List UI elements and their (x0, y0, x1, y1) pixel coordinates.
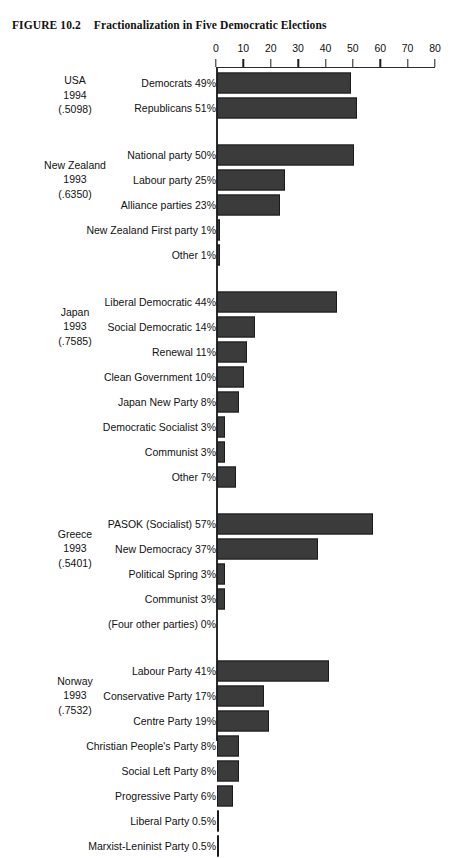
x-axis-tick-mark (297, 59, 298, 67)
party-label: Alliance parties 23% (121, 199, 216, 211)
party-label: New Democracy 37% (115, 543, 216, 555)
bar-row: Conservative Party 17% (0, 683, 450, 708)
bar (217, 416, 225, 437)
party-label: Conservative Party 17% (103, 690, 216, 702)
bar (217, 835, 219, 856)
bar (217, 810, 219, 831)
bar-row: Communist 3% (0, 586, 450, 611)
party-label: Renewal 11% (152, 346, 216, 358)
bar (217, 97, 357, 118)
party-label: Social Democratic 14% (107, 321, 216, 333)
bar-row: Labour party 25% (0, 167, 450, 192)
country-group: New Zealand1993(.6350)National party 50%… (0, 142, 450, 267)
party-label: Communist 3% (145, 593, 216, 605)
bar-row: Centre Party 19% (0, 708, 450, 733)
bar-row: Alliance parties 23% (0, 192, 450, 217)
party-label: Democrats 49% (141, 77, 216, 89)
bar (217, 316, 255, 337)
axis-rule (216, 67, 435, 68)
bar (217, 563, 225, 584)
bar (217, 685, 264, 706)
bar (217, 785, 233, 806)
x-axis-tick-mark (270, 59, 271, 67)
bar-row: Other 1% (0, 242, 450, 267)
x-axis-tick-label: 60 (374, 42, 386, 54)
bar (217, 735, 239, 756)
bar-row: Political Spring 3% (0, 561, 450, 586)
bar-row: Labour Party 41% (0, 658, 450, 683)
country-group: USA1994(.5098)Democrats 49%Republicans 5… (0, 70, 450, 120)
bar-row: Social Democratic 14% (0, 314, 450, 339)
party-label: Clean Government 10% (104, 371, 216, 383)
bar-row: New Zealand First party 1% (0, 217, 450, 242)
bar (217, 710, 269, 731)
bar-row: Other 7% (0, 464, 450, 489)
bar (217, 144, 354, 165)
bar (217, 244, 220, 265)
bar (217, 391, 239, 412)
x-axis-tick-label: 50 (347, 42, 359, 54)
bar (217, 466, 236, 487)
bar (217, 588, 225, 609)
x-axis-tick-mark (325, 59, 326, 67)
bar-row: Liberal Democratic 44% (0, 289, 450, 314)
party-label: Christian People's Party 8% (86, 740, 216, 752)
country-group: Japan1993(.7585)Liberal Democratic 44%So… (0, 289, 450, 489)
bar-row: Progressive Party 6% (0, 783, 450, 808)
bar-row: Liberal Party 0.5% (0, 808, 450, 833)
x-axis: 01020304050607080 (216, 44, 435, 60)
bar-row: PASOK (Socialist) 57% (0, 511, 450, 536)
bar-row: Renewal 11% (0, 339, 450, 364)
bar (217, 366, 244, 387)
bar-row: Republicans 51% (0, 95, 450, 120)
x-axis-tick-mark (407, 59, 408, 67)
country-group: Greece1993(.5401)PASOK (Socialist) 57%Ne… (0, 511, 450, 636)
party-label: Marxist-Leninist Party 0.5% (88, 840, 216, 852)
x-axis-tick-label: 30 (292, 42, 304, 54)
bar (217, 441, 225, 462)
party-label: Democratic Socialist 3% (103, 421, 216, 433)
bar (217, 291, 337, 312)
party-label: Labour Party 41% (132, 665, 216, 677)
party-label: Social Left Party 8% (121, 765, 216, 777)
country-group: Norway1993(.7532)Labour Party 41%Conserv… (0, 658, 450, 858)
bar (217, 72, 351, 93)
bar-row: Clean Government 10% (0, 364, 450, 389)
bar (217, 219, 220, 240)
x-axis-tick-mark (380, 59, 381, 67)
x-axis-tick-label: 80 (429, 42, 441, 54)
x-axis-tick-mark (215, 59, 216, 67)
party-label: New Zealand First party 1% (86, 224, 216, 236)
x-axis-tick-label: 70 (402, 42, 414, 54)
party-label: Communist 3% (145, 446, 216, 458)
party-label: Progressive Party 6% (115, 790, 216, 802)
bar-row: Democratic Socialist 3% (0, 414, 450, 439)
bar-row: (Four other parties) 0% (0, 611, 450, 636)
bar (217, 194, 280, 215)
x-axis-tick-label: 10 (238, 42, 250, 54)
party-label: National party 50% (127, 149, 216, 161)
bar-row: Japan New Party 8% (0, 389, 450, 414)
party-label: Political Spring 3% (128, 568, 216, 580)
x-axis-tick-mark (243, 59, 244, 67)
bar-row: Marxist-Leninist Party 0.5% (0, 833, 450, 858)
bar-row: Democrats 49% (0, 70, 450, 95)
bar-row: Social Left Party 8% (0, 758, 450, 783)
party-label: Republicans 51% (134, 102, 216, 114)
bar (217, 760, 239, 781)
x-axis-tick-label: 20 (265, 42, 277, 54)
bar-row: Christian People's Party 8% (0, 733, 450, 758)
bar (217, 341, 247, 362)
party-label: Other 1% (172, 249, 216, 261)
x-axis-tick-label: 0 (213, 42, 219, 54)
x-axis-tick-label: 40 (320, 42, 332, 54)
bar-row: Communist 3% (0, 439, 450, 464)
bar (217, 538, 318, 559)
bar (217, 660, 329, 681)
bar-row: New Democracy 37% (0, 536, 450, 561)
bar (217, 513, 373, 534)
party-label: Other 7% (172, 471, 216, 483)
party-label: Labour party 25% (133, 174, 216, 186)
bar (217, 169, 285, 190)
